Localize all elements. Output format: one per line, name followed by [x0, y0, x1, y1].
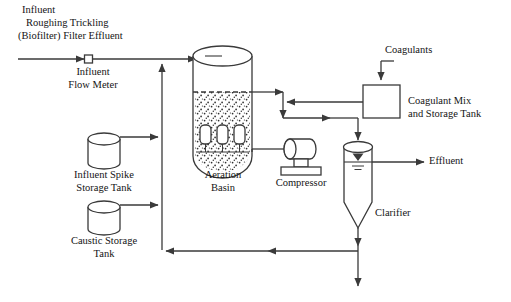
- label-caustic-storage-tank-line2: Tank: [58, 248, 150, 261]
- label-caustic-storage-tank-line1: Caustic Storage: [58, 235, 150, 248]
- aeration-basin-symbol: [193, 46, 252, 178]
- label-aeration-basin-line2: Basin: [187, 182, 259, 195]
- label-influent-flow-meter-line2: Flow Meter: [60, 79, 126, 92]
- compressor-symbol: [281, 139, 321, 175]
- label-compressor: Compressor: [266, 177, 336, 190]
- label-influent-source-line1: Influent: [22, 4, 55, 17]
- label-coagulants: Coagulants: [385, 44, 432, 57]
- clarifier-symbol: [344, 142, 373, 229]
- caustic-storage-tank-symbol: [88, 201, 120, 235]
- label-influent-source-line3: (Biofilter) Filter Effluent: [18, 30, 123, 43]
- stream-coagulants-feed: [381, 61, 394, 80]
- label-effluent: Effluent: [429, 155, 463, 168]
- stream-aeration-to-clarifier: [252, 92, 358, 140]
- label-coagulant-mix-tank-line2: and Storage Tank: [408, 108, 481, 121]
- influent-flow-meter-symbol: [85, 55, 93, 63]
- label-clarifier: Clarifier: [375, 207, 411, 220]
- label-coagulant-mix-tank-line1: Coagulant Mix: [408, 95, 471, 108]
- stream-air-supply: [252, 149, 284, 152]
- label-influent-flow-meter-line1: Influent: [60, 66, 126, 79]
- coagulant-mix-tank-symbol: [363, 85, 400, 118]
- label-influent-spike-storage-tank-line2: Storage Tank: [64, 182, 144, 195]
- label-influent-spike-storage-tank-line1: Influent Spike: [64, 169, 144, 182]
- label-influent-source-line2: Roughing Trickling: [26, 17, 109, 30]
- label-aeration-basin-line1: Aeration: [187, 169, 259, 182]
- process-flow-diagram: Influent Roughing Trickling (Biofilter) …: [0, 0, 511, 302]
- influent-spike-storage-tank-symbol: [88, 133, 120, 169]
